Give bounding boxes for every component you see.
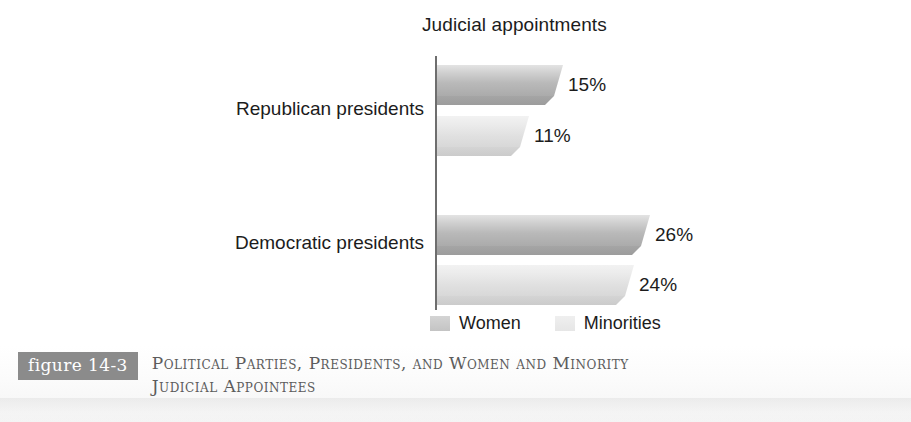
bar-bevel bbox=[437, 246, 650, 255]
bar-value-democratic-minorities: 24% bbox=[639, 274, 677, 296]
legend-swatch-women-icon bbox=[430, 316, 450, 331]
bar-bevel bbox=[437, 96, 563, 105]
bar-face bbox=[437, 265, 634, 296]
category-label-democratic: Democratic presidents bbox=[235, 232, 424, 254]
chart-title: Judicial appointments bbox=[422, 14, 607, 36]
bar-bevel bbox=[437, 147, 529, 156]
bar-value-republican-women: 15% bbox=[568, 74, 606, 96]
bar-face bbox=[437, 116, 529, 147]
bar-republican-minorities bbox=[437, 116, 529, 147]
legend-label-minorities: Minorities bbox=[584, 313, 661, 334]
category-label-democratic-wrap: Democratic presidents bbox=[0, 232, 424, 256]
bar-value-republican-minorities: 11% bbox=[534, 125, 571, 147]
bar-democratic-minorities bbox=[437, 265, 634, 296]
legend-item-women: Women bbox=[430, 313, 521, 334]
bar-value-democratic-women: 26% bbox=[655, 224, 693, 246]
bar-bevel bbox=[437, 296, 634, 305]
figure-caption-line-2: Judicial Appointees bbox=[152, 375, 629, 398]
category-label-republican-wrap: Republican presidents bbox=[0, 98, 424, 122]
bar-chart: Judicial appointments Republican preside… bbox=[0, 0, 911, 345]
figure-caption-text: Political Parties, Presidents, and Women… bbox=[152, 352, 629, 398]
bar-face bbox=[437, 215, 650, 246]
bar-face bbox=[437, 65, 563, 96]
figure-number-tag: figure 14-3 bbox=[18, 352, 138, 380]
bar-republican-women bbox=[437, 65, 563, 96]
category-label-republican: Republican presidents bbox=[236, 98, 424, 120]
legend-swatch-minorities-icon bbox=[555, 316, 575, 331]
legend-label-women: Women bbox=[459, 313, 521, 334]
figure-caption-line-1: Political Parties, Presidents, and Women… bbox=[152, 352, 629, 375]
bar-democratic-women bbox=[437, 215, 650, 246]
figure-caption: figure 14-3 Political Parties, President… bbox=[0, 351, 911, 403]
legend-item-minorities: Minorities bbox=[555, 313, 661, 334]
chart-legend: Women Minorities bbox=[430, 313, 661, 334]
